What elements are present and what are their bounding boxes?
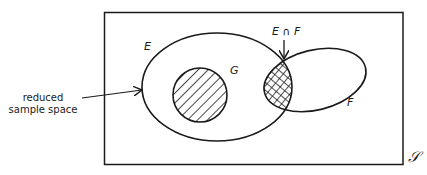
reduced-space-arrow bbox=[82, 90, 142, 98]
sample-space-symbol: 𝒮 bbox=[408, 148, 420, 166]
reduced-sample-space-label: reduced sample space bbox=[3, 92, 83, 116]
venn-diagram bbox=[0, 0, 427, 175]
annotation-line-1: reduced bbox=[3, 92, 83, 104]
annotation-line-2: sample space bbox=[3, 104, 83, 116]
set-g-region bbox=[173, 68, 227, 122]
intersection-label: E ∩ F bbox=[272, 25, 300, 38]
set-e-label: E bbox=[144, 40, 151, 53]
set-g-label: G bbox=[230, 64, 239, 77]
set-f-label: F bbox=[347, 96, 353, 109]
